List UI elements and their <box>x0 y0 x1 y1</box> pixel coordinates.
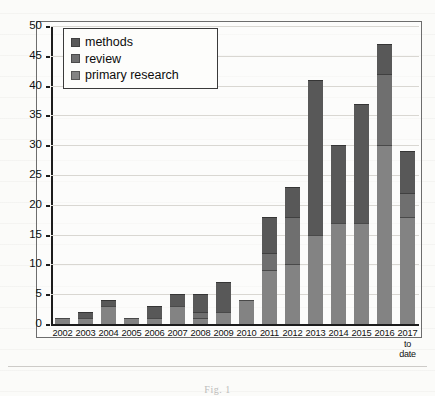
legend-swatch-methods <box>71 38 80 47</box>
bar-segment-methods <box>193 294 208 312</box>
x-axis-label: 2010 <box>235 328 258 360</box>
legend-label-review: review <box>85 53 121 66</box>
x-axis <box>51 324 419 326</box>
bar-stack <box>101 300 116 324</box>
x-axis-label: 2016 <box>373 328 396 360</box>
y-axis-tick <box>46 205 50 207</box>
bar-segment-methods <box>262 217 277 253</box>
y-axis-tick-label: 40 <box>29 80 42 92</box>
bar-column <box>396 26 419 324</box>
bar-stack <box>331 145 346 324</box>
bar-segment-primary <box>193 318 208 324</box>
y-axis-tick <box>46 175 50 177</box>
x-axis-label: 2009 <box>212 328 235 360</box>
bar-stack <box>400 151 415 324</box>
chart-page: 05101520253035404550 2002200320042005200… <box>0 0 435 396</box>
bar-segment-primary <box>101 306 116 324</box>
bar-stack <box>377 44 392 324</box>
x-axis-label: 2017todate <box>396 328 419 360</box>
bar-stack <box>124 318 139 324</box>
bar-stack <box>239 300 254 324</box>
legend-item-primary-research: primary research <box>71 69 210 82</box>
x-axis-label: 2006 <box>143 328 166 360</box>
y-axis-tick <box>46 324 50 326</box>
bar-segment-review <box>400 193 415 217</box>
bar-stack <box>285 187 300 324</box>
bar-column <box>258 26 281 324</box>
y-axis-tick-label: 5 <box>36 288 42 300</box>
bar-column <box>281 26 304 324</box>
y-axis-tick-label: 10 <box>29 259 42 271</box>
y-axis-tick <box>46 235 50 237</box>
bar-column <box>350 26 373 324</box>
x-axis-labels: 2002200320042005200620072008200920102011… <box>51 328 419 360</box>
bar-segment-methods <box>147 306 162 318</box>
bar-segment-review <box>285 217 300 265</box>
y-axis-tick-label: 45 <box>29 50 42 62</box>
bar-column <box>304 26 327 324</box>
bar-stack <box>354 104 369 325</box>
x-axis-label: 2004 <box>97 328 120 360</box>
bar-segment-primary <box>55 318 70 324</box>
bar-column <box>235 26 258 324</box>
legend-label-primary-research: primary research <box>85 69 179 82</box>
bar-segment-methods <box>400 151 415 193</box>
y-axis-tick-label: 50 <box>29 20 42 32</box>
bar-stack <box>216 282 231 324</box>
x-axis-label-sub: date <box>396 349 419 360</box>
x-axis-label-sub: to <box>396 339 419 350</box>
x-axis-label: 2003 <box>74 328 97 360</box>
bar-stack <box>193 294 208 324</box>
y-axis-tick <box>46 264 50 266</box>
bar-column <box>373 26 396 324</box>
bar-segment-primary <box>285 264 300 324</box>
x-axis-label: 2005 <box>120 328 143 360</box>
legend-label-methods: methods <box>85 36 133 49</box>
legend-item-methods: methods <box>71 36 210 49</box>
legend-swatch-primary-research <box>71 71 80 80</box>
bar-segment-methods <box>331 145 346 222</box>
x-axis-label: 2012 <box>281 328 304 360</box>
y-axis-tick <box>46 86 50 88</box>
x-axis-label: 2013 <box>304 328 327 360</box>
bar-segment-primary <box>331 223 346 324</box>
bar-segment-methods <box>377 44 392 74</box>
bar-stack <box>308 80 323 324</box>
bar-segment-primary <box>377 145 392 324</box>
bar-segment-primary <box>170 306 185 324</box>
x-axis-label: 2014 <box>327 328 350 360</box>
bar-segment-primary <box>354 223 369 324</box>
bar-segment-primary <box>239 300 254 324</box>
bar-stack <box>147 306 162 324</box>
y-axis-tick-label: 0 <box>36 318 42 330</box>
page-rule <box>8 366 427 367</box>
bar-segment-primary <box>78 318 93 324</box>
y-axis-tick-label: 30 <box>29 139 42 151</box>
bar-stack <box>170 294 185 324</box>
bar-stack <box>262 217 277 324</box>
y-axis-tick-label: 35 <box>29 110 42 122</box>
bar-segment-primary <box>308 235 323 324</box>
figure-caption: Fig. 1 <box>0 384 435 395</box>
y-axis-tick <box>46 294 50 296</box>
bar-stack <box>55 318 70 324</box>
y-axis-tick <box>46 115 50 117</box>
y-axis-tick-label: 15 <box>29 229 42 241</box>
bar-segment-methods <box>170 294 185 306</box>
x-axis-label: 2008 <box>189 328 212 360</box>
bar-segment-primary <box>216 312 231 324</box>
x-axis-label: 2002 <box>51 328 74 360</box>
bar-segment-primary <box>262 270 277 324</box>
bar-segment-methods <box>354 104 369 223</box>
legend-swatch-review <box>71 54 80 63</box>
bar-segment-primary <box>147 318 162 324</box>
bar-segment-methods <box>285 187 300 217</box>
bar-segment-methods <box>308 80 323 235</box>
y-axis-tick-label: 25 <box>29 169 42 181</box>
bar-segment-review <box>377 74 392 146</box>
bar-segment-primary <box>400 217 415 324</box>
y-axis-tick <box>46 56 50 58</box>
bar-column <box>327 26 350 324</box>
legend-item-review: review <box>71 53 210 66</box>
x-axis-label: 2015 <box>350 328 373 360</box>
